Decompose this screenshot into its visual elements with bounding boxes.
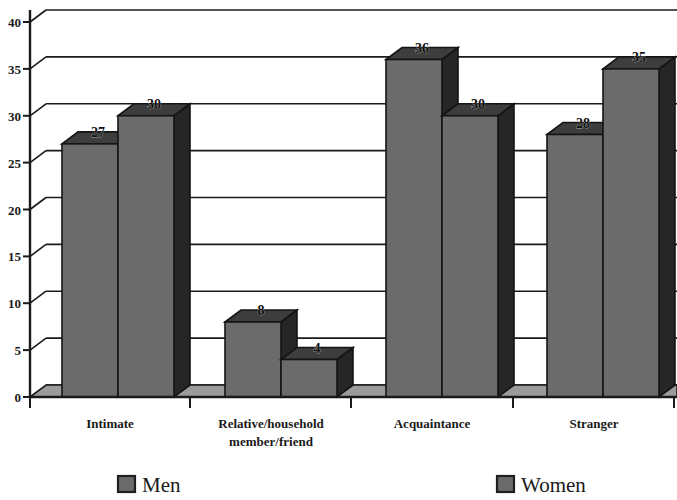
- y-tick-label-40: 40: [8, 15, 21, 30]
- legend-label-women: Women: [521, 473, 586, 497]
- depth-edge-35: [30, 57, 46, 69]
- bar-front-face: [118, 116, 174, 397]
- y-tick-label-35: 35: [8, 62, 22, 77]
- y-tick-label-30: 30: [8, 109, 21, 124]
- bar-value-label: 35: [632, 50, 646, 65]
- bar-front-face: [547, 135, 603, 398]
- bar-side-face: [174, 104, 190, 397]
- depth-edge-15: [30, 244, 46, 256]
- category-label-relative-line1: Relative/household: [218, 416, 324, 431]
- y-axis: 40 35 30 25 20 15 10 5 0: [8, 10, 30, 405]
- bar-value-label: 30: [471, 97, 485, 112]
- bar-chart: 40 35 30 25 20 15 10 5 0 27308436302835: [0, 0, 677, 500]
- bar-front-face: [386, 60, 442, 398]
- bar-value-label: 36: [415, 41, 429, 56]
- bar-value-label: 27: [91, 125, 105, 140]
- bar-women-2: [442, 104, 514, 397]
- legend-item-men[interactable]: Men: [118, 473, 181, 497]
- x-axis-ticks: [30, 397, 674, 408]
- bar-front-face: [281, 360, 337, 398]
- bar-women-3: [603, 57, 675, 397]
- category-label-acquaintance: Acquaintance: [394, 416, 471, 431]
- legend-swatch-women-icon: [497, 476, 514, 492]
- bar-side-face: [498, 104, 514, 397]
- depth-edge-30: [30, 104, 46, 116]
- depth-edge-10: [30, 291, 46, 303]
- chart-canvas: 40 35 30 25 20 15 10 5 0 27308436302835: [0, 0, 677, 500]
- y-tick-label-10: 10: [8, 296, 21, 311]
- legend-item-women[interactable]: Women: [497, 473, 586, 497]
- bar-front-face: [603, 69, 659, 397]
- bar-value-label: 4: [314, 341, 321, 356]
- y-tick-label-20: 20: [8, 203, 21, 218]
- bar-women-0: [118, 104, 190, 397]
- category-label-intimate: Intimate: [86, 416, 134, 431]
- depth-edge-25: [30, 151, 46, 163]
- bar-value-label: 8: [258, 303, 265, 318]
- category-label-stranger: Stranger: [569, 416, 618, 431]
- legend-label-men: Men: [142, 473, 181, 497]
- y-tick-label-5: 5: [15, 343, 22, 358]
- legend-swatch-men-icon: [118, 476, 135, 492]
- bar-value-label: 28: [576, 116, 590, 131]
- category-label-relative-line2: member/friend: [229, 434, 314, 449]
- legend: Men Women: [118, 473, 586, 497]
- depth-connectors: [30, 10, 46, 350]
- bar-side-face: [659, 57, 675, 397]
- bar-value-label: 30: [147, 97, 161, 112]
- depth-edge-40: [30, 10, 46, 22]
- bar-front-face: [225, 322, 281, 397]
- y-tick-label-15: 15: [8, 249, 22, 264]
- bar-front-face: [62, 144, 118, 397]
- depth-edge-20: [30, 198, 46, 210]
- x-axis: [30, 397, 677, 408]
- depth-edge-5: [30, 338, 46, 350]
- category-labels: Intimate Relative/household member/frien…: [86, 416, 619, 449]
- y-tick-label-25: 25: [8, 156, 22, 171]
- y-tick-label-0: 0: [15, 390, 22, 405]
- bar-front-face: [442, 116, 498, 397]
